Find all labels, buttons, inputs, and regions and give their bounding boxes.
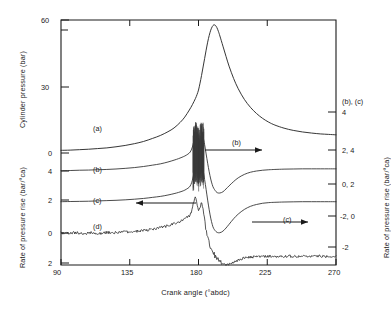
y-axis-ticks-left <box>61 20 69 263</box>
plot-area <box>0 0 391 311</box>
data-curve-d <box>61 197 336 266</box>
spike-cluster <box>193 122 204 191</box>
x-axis-ticks-top <box>130 20 268 26</box>
x-axis-ticks <box>61 259 336 265</box>
y-axis-ticks-right <box>328 112 336 247</box>
figure-container: Cylinder pressure (bar) Rate of pressure… <box>0 0 391 311</box>
